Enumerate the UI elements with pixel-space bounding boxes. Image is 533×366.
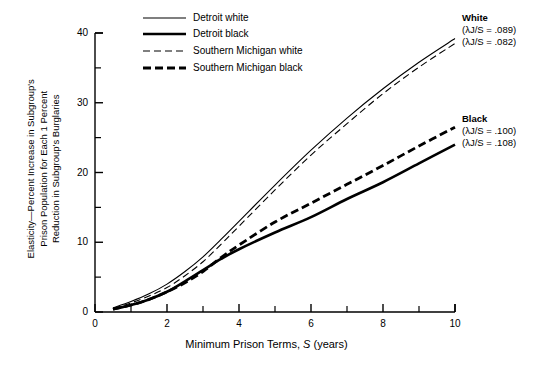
annotation-white: White (λJ/S = .089) (λJ/S = .082) <box>462 12 516 48</box>
y-axis-ticks <box>95 33 103 312</box>
y-axis-title-line: Prison Population for Each 1 Percent <box>38 39 51 299</box>
x-axis-title-pre: Minimum Prison Terms, <box>185 338 303 350</box>
annotation-black-title: Black <box>462 113 516 125</box>
annotation-white-title: White <box>462 12 516 24</box>
x-tick-label: 10 <box>440 318 470 329</box>
y-tick-label: 0 <box>62 306 88 317</box>
legend-label-3: Southern Michigan black <box>193 62 303 73</box>
legend-label-0: Detroit white <box>193 12 249 23</box>
annotation-black: Black (λJ/S = .100) (λJ/S = .108) <box>462 113 516 149</box>
legend-swatches <box>143 18 186 68</box>
data-curves <box>113 39 455 310</box>
x-axis-ticks <box>95 304 455 312</box>
y-axis-title-line: Reduction in Subgroup's Burglaries <box>50 39 63 299</box>
annotation-white-line1: (λJ/S = .089) <box>462 24 516 36</box>
y-tick-label: 10 <box>62 236 88 247</box>
y-axis-title: Elasticity—Percent Increase in Subgroup'… <box>25 39 63 299</box>
chart-figure: 010203040 0246810 Detroit whiteDetroit b… <box>0 0 533 366</box>
x-tick-label: 6 <box>296 318 326 329</box>
x-tick-label: 0 <box>80 318 110 329</box>
x-axis-title-post: (years) <box>310 338 347 350</box>
x-tick-label: 4 <box>224 318 254 329</box>
y-tick-label: 20 <box>62 167 88 178</box>
y-tick-label: 40 <box>62 27 88 38</box>
y-tick-label: 30 <box>62 97 88 108</box>
annotation-black-line1: (λJ/S = .100) <box>462 125 516 137</box>
curve-detroit-white <box>113 39 455 308</box>
x-axis-title: Minimum Prison Terms, S (years) <box>0 338 533 350</box>
curve-detroit-black <box>113 145 455 310</box>
legend-label-2: Southern Michigan white <box>193 45 303 56</box>
x-tick-label: 2 <box>152 318 182 329</box>
y-axis-title-line: Elasticity—Percent Increase in Subgroup'… <box>25 39 38 299</box>
curve-southern-michigan-black <box>113 127 455 309</box>
legend-label-1: Detroit black <box>193 28 249 39</box>
annotation-black-line2: (λJ/S = .108) <box>462 137 516 149</box>
x-tick-label: 8 <box>368 318 398 329</box>
annotation-white-line2: (λJ/S = .082) <box>462 36 516 48</box>
